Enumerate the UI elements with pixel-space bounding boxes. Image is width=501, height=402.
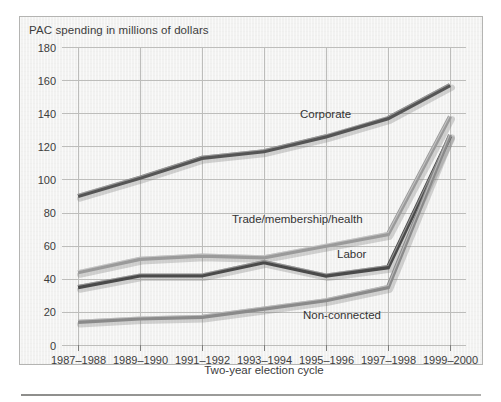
x-axis-tick-label: 1997–1998 bbox=[361, 354, 416, 366]
y-axis-tick-labels: 020406080100120140160180 bbox=[38, 42, 56, 352]
y-axis-tick-label: 160 bbox=[38, 75, 56, 87]
series-annotation: Non-connected bbox=[303, 309, 381, 321]
series-annotation: Trade/membership/health bbox=[232, 213, 363, 225]
y-axis-tick-label: 120 bbox=[38, 141, 56, 153]
y-axis-tick-label: 80 bbox=[44, 207, 56, 219]
series-annotation: Labor bbox=[337, 248, 367, 260]
y-axis-tick-label: 20 bbox=[44, 306, 56, 318]
y-axis-tick-label: 140 bbox=[38, 108, 56, 120]
series-annotation: Corporate bbox=[300, 108, 351, 120]
y-axis-tick-label: 40 bbox=[44, 273, 56, 285]
y-axis-tick-label: 60 bbox=[44, 240, 56, 252]
footer-rule bbox=[21, 394, 481, 396]
y-axis-tick-label: 100 bbox=[38, 174, 56, 186]
x-axis-title: Two-year election cycle bbox=[204, 364, 324, 376]
x-axis-tick-label: 1987–1988 bbox=[51, 354, 106, 366]
x-axis-tick-label: 1999–2000 bbox=[423, 354, 478, 366]
line-chart-plot: 020406080100120140160180 1987–19881989–1… bbox=[0, 0, 501, 402]
x-axis-tick-label: 1989–1990 bbox=[113, 354, 168, 366]
series-shadow bbox=[80, 88, 452, 199]
gridlines-vertical bbox=[79, 47, 451, 345]
y-axis-tick-label: 180 bbox=[38, 42, 56, 54]
y-axis-tick-label: 0 bbox=[50, 340, 56, 352]
figure-root: PAC spending in millions of dollars 0204… bbox=[0, 0, 501, 402]
